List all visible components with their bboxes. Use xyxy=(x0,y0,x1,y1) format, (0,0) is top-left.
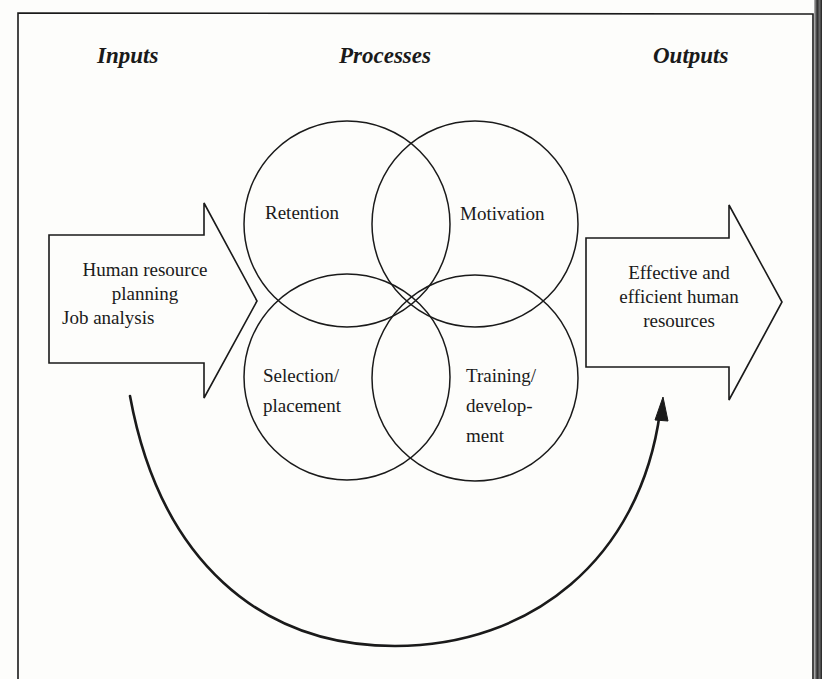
input-line-3: Job analysis xyxy=(60,306,230,330)
output-arrow-text: Effective and efficient human resources xyxy=(593,261,765,333)
input-line-1: Human resource xyxy=(60,258,230,282)
header-processes: Processes xyxy=(339,43,431,69)
selection-line-1: Selection/ xyxy=(263,364,341,388)
output-line-3: resources xyxy=(593,309,765,333)
diagram-graphics xyxy=(0,0,822,679)
training-line-3: ment xyxy=(466,424,536,448)
training-line-2: develop- xyxy=(466,394,536,418)
header-inputs: Inputs xyxy=(97,43,158,69)
arrowhead-icon xyxy=(655,397,668,421)
input-arrow-text: Human resource planning Job analysis xyxy=(60,258,230,330)
training-line-1: Training/ xyxy=(466,364,536,388)
page-binding-shadow xyxy=(814,0,822,679)
output-line-2: efficient human xyxy=(593,285,765,309)
feedback-curve xyxy=(130,396,660,646)
selection-line-2: placement xyxy=(263,394,341,418)
label-motivation: Motivation xyxy=(460,202,544,226)
input-line-2: planning xyxy=(60,282,230,306)
header-outputs: Outputs xyxy=(653,43,728,69)
label-training: Training/ develop- ment xyxy=(466,364,536,448)
label-retention: Retention xyxy=(265,201,339,225)
label-selection: Selection/ placement xyxy=(263,364,341,418)
output-line-1: Effective and xyxy=(593,261,765,285)
hr-system-diagram: Inputs Processes Outputs Human resource … xyxy=(0,0,822,679)
